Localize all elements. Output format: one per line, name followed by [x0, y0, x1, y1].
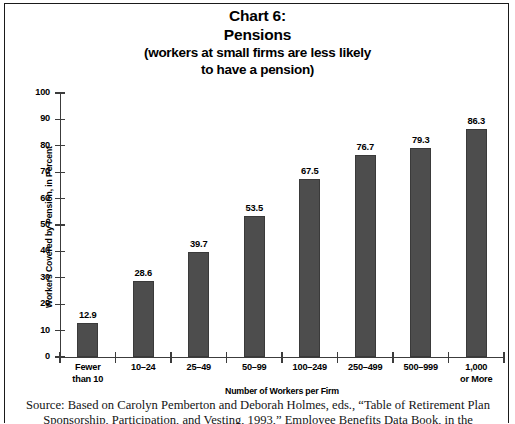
x-axis-category-label: 50–99	[224, 362, 284, 374]
x-axis-category-label-line: 50–99	[224, 362, 284, 374]
y-axis-tick	[55, 224, 65, 225]
y-axis-tick-label: 60	[0, 193, 50, 203]
x-axis-category-label-line: 1,000	[446, 362, 506, 374]
bar	[244, 216, 265, 357]
bar	[188, 252, 209, 357]
y-axis-tick-label: 30	[0, 272, 50, 282]
source-note-line-2: Sponsorship, Participation, and Vesting,…	[8, 413, 508, 424]
bar-value-label: 28.6	[118, 267, 168, 278]
x-axis-category-label-line: than 10	[58, 374, 118, 386]
bar-value-label: 86.3	[451, 115, 501, 126]
x-axis-category-label: Fewerthan 10	[58, 362, 118, 385]
y-axis-tick	[55, 198, 65, 199]
bar	[466, 129, 487, 357]
x-axis-category-label: 250–499	[335, 362, 395, 374]
y-axis-tick-label: 10	[0, 325, 50, 335]
y-axis-tick-label: 50	[0, 219, 50, 229]
x-axis-category-label-line: 250–499	[335, 362, 395, 374]
bar-value-label: 67.5	[285, 165, 335, 176]
y-axis-tick	[55, 330, 65, 331]
x-axis-category-label-line: or More	[446, 374, 506, 386]
y-axis-tick-label: 70	[0, 166, 50, 176]
source-note: Source: Based on Carolyn Pemberton and D…	[8, 398, 508, 424]
y-axis-tick	[55, 304, 65, 305]
x-axis-category-label: 1,000or More	[446, 362, 506, 385]
bar	[133, 281, 154, 357]
bar-value-label: 12.9	[63, 309, 113, 320]
x-axis-category-label-line: 25–49	[169, 362, 229, 374]
y-axis-tick-label: 40	[0, 245, 50, 255]
y-axis-tick	[55, 172, 65, 173]
y-axis-tick-label: 20	[0, 298, 50, 308]
x-axis-category-label-line: 100–249	[280, 362, 340, 374]
y-axis-tick-label: 100	[0, 87, 50, 97]
bar-value-label: 53.5	[229, 202, 279, 213]
y-axis-tick	[55, 277, 65, 278]
y-axis-tick-label: 0	[0, 351, 50, 361]
x-axis-title: Number of Workers per Firm	[60, 386, 504, 396]
x-axis-category-label-line: 500–999	[391, 362, 451, 374]
bar-value-label: 76.7	[340, 141, 390, 152]
bar	[410, 148, 431, 357]
y-axis-tick	[55, 92, 65, 93]
source-note-line-1: Source: Based on Carolyn Pemberton and D…	[8, 398, 508, 413]
x-axis-category-label: 100–249	[280, 362, 340, 374]
y-axis-tick	[55, 145, 65, 146]
bar-value-label: 79.3	[396, 134, 446, 145]
y-axis-tick-label: 90	[0, 113, 50, 123]
bar	[77, 323, 98, 357]
bar	[299, 179, 320, 357]
x-axis-category-label-line: 10–24	[113, 362, 173, 374]
x-axis-category-label-line: Fewer	[58, 362, 118, 374]
x-axis-category-label: 25–49	[169, 362, 229, 374]
x-axis-category-label: 10–24	[113, 362, 173, 374]
bar	[355, 155, 376, 357]
y-axis-tick	[55, 119, 65, 120]
y-axis-tick-label: 80	[0, 140, 50, 150]
x-axis-category-label: 500–999	[391, 362, 451, 374]
y-axis-tick	[55, 251, 65, 252]
bar-value-label: 39.7	[174, 238, 224, 249]
